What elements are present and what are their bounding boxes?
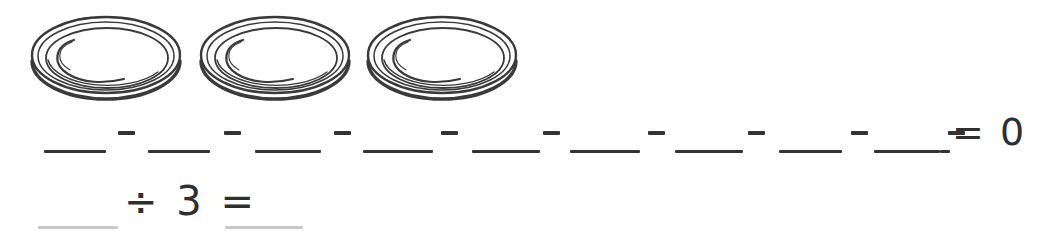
equation-row: = 0: [0, 113, 1045, 165]
minus-sign-icon: [851, 131, 868, 135]
equation-blank[interactable]: [779, 150, 842, 153]
dividend-blank[interactable]: [38, 226, 118, 229]
equation-blank[interactable]: [363, 150, 433, 153]
minus-sign-icon: [224, 131, 241, 135]
quotient-blank[interactable]: [225, 226, 303, 229]
equation-result: = 0: [952, 113, 1026, 151]
minus-sign-icon: [748, 131, 765, 135]
minus-sign-icon: [441, 131, 458, 135]
equation-blank[interactable]: [255, 150, 321, 153]
equation-blank[interactable]: [472, 150, 540, 153]
plate-illustration-2: [197, 6, 353, 106]
equation-blank[interactable]: [148, 150, 210, 153]
division-expression: ÷ 3 =: [124, 180, 257, 222]
equation-blank[interactable]: [874, 150, 940, 153]
plate-illustration-3: [364, 6, 520, 106]
division-row: ÷ 3 =: [0, 176, 1045, 231]
minus-sign-icon: [543, 131, 560, 135]
plate-illustration-1: [28, 6, 184, 106]
minus-sign-icon: [118, 131, 135, 135]
equation-blank[interactable]: [675, 150, 743, 153]
plates-row: [0, 0, 1045, 112]
equation-blank[interactable]: [44, 150, 106, 153]
worksheet-canvas: = 0 ÷ 3 =: [0, 0, 1045, 231]
equation-blank[interactable]: [940, 150, 950, 153]
minus-sign-icon: [648, 131, 665, 135]
minus-sign-icon: [334, 131, 351, 135]
equation-blank[interactable]: [570, 150, 640, 153]
